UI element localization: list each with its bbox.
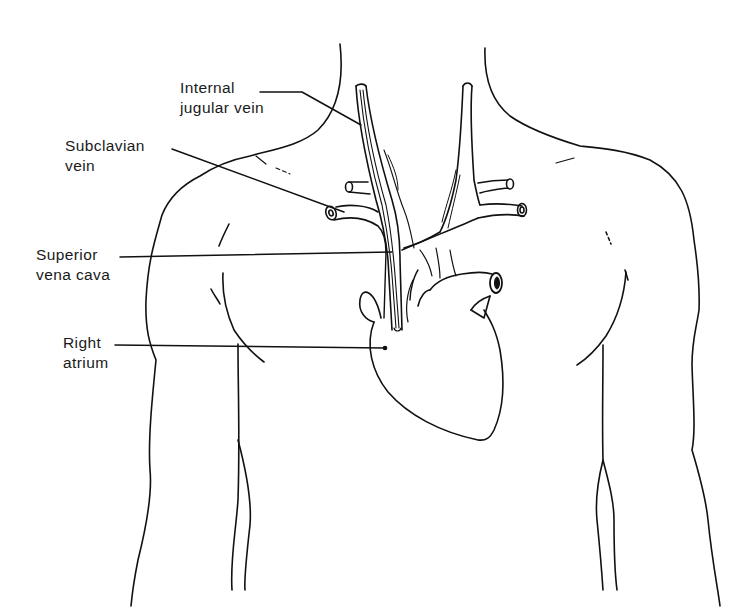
label-line: vena cava — [36, 265, 110, 285]
label-line: Internal — [180, 78, 264, 98]
leader-internal-jugular — [260, 92, 361, 125]
label-line: Superior — [36, 245, 110, 265]
label-subclavian-vein: Subclavian vein — [65, 136, 145, 176]
label-right-atrium: Right atrium — [63, 333, 108, 373]
heart — [360, 248, 503, 440]
anatomy-illustration — [0, 0, 754, 615]
leader-lines — [115, 92, 392, 350]
leader-superior-vena-cava — [120, 252, 392, 257]
label-superior-vena-cava: Superior vena cava — [36, 245, 110, 285]
body-outline — [131, 44, 720, 606]
label-line: Right — [63, 333, 108, 353]
leader-right-atrium — [115, 345, 385, 348]
label-line: vein — [65, 156, 145, 176]
anatomy-diagram: Internal jugular vein Subclavian vein Su… — [0, 0, 754, 615]
label-internal-jugular-vein: Internal jugular vein — [180, 78, 264, 118]
label-line: Subclavian — [65, 136, 145, 156]
label-line: jugular vein — [180, 98, 264, 118]
label-line: atrium — [63, 353, 108, 373]
leader-subclavian — [172, 149, 344, 212]
